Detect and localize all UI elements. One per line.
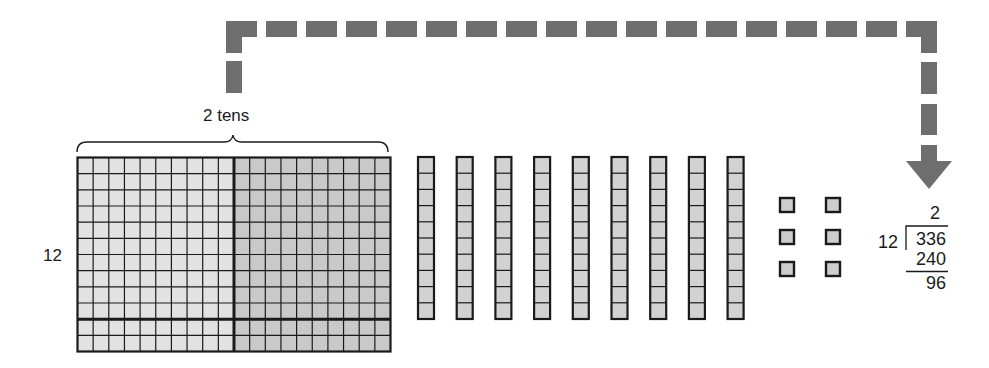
divisor: 12 — [860, 233, 898, 251]
quotient: 2 — [900, 204, 940, 222]
remainder: 96 — [900, 274, 946, 292]
dividend: 336 — [900, 230, 946, 248]
long-division: 2 12 336 240 96 — [860, 195, 960, 305]
unit-cubes — [0, 0, 989, 368]
subtrahend: 240 — [900, 250, 946, 268]
